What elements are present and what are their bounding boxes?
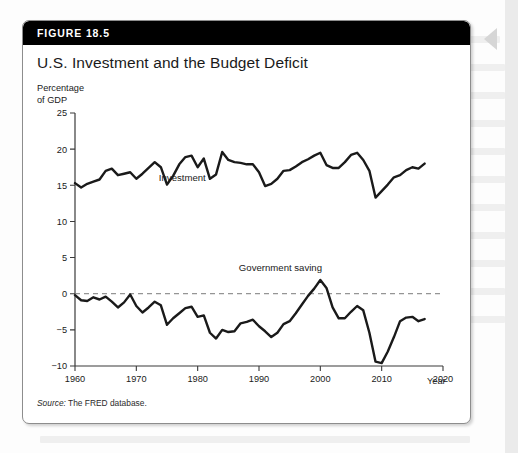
svg-text:0: 0: [62, 289, 67, 299]
figure-card: FIGURE 18.5 U.S. Investment and the Budg…: [22, 20, 471, 424]
x-axis-ticks: 1960197019801990200020102020: [65, 366, 453, 384]
svg-text:25: 25: [57, 108, 67, 118]
investment-series-label: Investment: [159, 172, 206, 183]
chart-plot: 2520151050−5−10 196019701980199020002010…: [23, 21, 471, 424]
svg-text:−5: −5: [57, 325, 67, 335]
page-arrow-icon: [484, 28, 497, 50]
y-axis-ticks: 2520151050−5−10: [51, 108, 75, 371]
government-saving-series-label: Government saving: [239, 262, 322, 273]
svg-text:2000: 2000: [310, 374, 330, 384]
svg-text:2020: 2020: [433, 374, 453, 384]
series-line-investment: [75, 152, 425, 198]
svg-text:2010: 2010: [371, 374, 391, 384]
svg-text:10: 10: [57, 217, 67, 227]
svg-text:1960: 1960: [65, 374, 85, 384]
svg-text:1980: 1980: [187, 374, 207, 384]
source-note: Source: The FRED database.: [37, 398, 147, 408]
svg-text:1990: 1990: [249, 374, 269, 384]
svg-text:5: 5: [62, 253, 67, 263]
page-edge: [505, 0, 518, 453]
series-line-government-saving: [75, 280, 425, 363]
svg-text:1970: 1970: [126, 374, 146, 384]
source-text: The FRED database.: [66, 398, 147, 408]
svg-text:20: 20: [57, 145, 67, 155]
svg-text:15: 15: [57, 181, 67, 191]
source-prefix: Source:: [37, 398, 66, 408]
svg-text:−10: −10: [51, 361, 67, 371]
background-text-line: [40, 436, 470, 443]
